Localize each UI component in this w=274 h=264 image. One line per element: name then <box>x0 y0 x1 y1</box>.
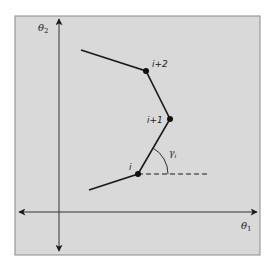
node-label-i-plus-1: i+1 <box>147 115 163 125</box>
node-i <box>135 171 141 177</box>
diagram: θ2 θ1 i+2 i+1 i γi <box>0 0 274 264</box>
node-i-plus-1 <box>167 116 173 122</box>
node-label-i-plus-2: i+2 <box>152 59 168 69</box>
diagram-panel <box>15 16 260 255</box>
node-i-plus-2 <box>143 68 149 74</box>
